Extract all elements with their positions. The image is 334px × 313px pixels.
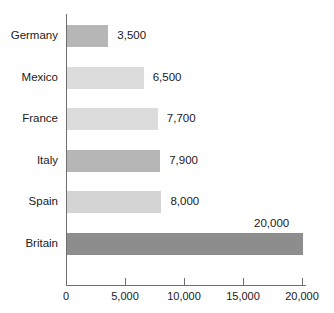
x-tick-3	[243, 278, 244, 285]
bar-mexico[interactable]	[67, 67, 144, 89]
bar-value-label-spain: 8,000	[170, 194, 199, 209]
bar-value-label-france: 7,700	[167, 111, 196, 126]
bar-chart: 05,00010,00015,00020,000 Germany3,500Mex…	[0, 0, 334, 313]
bar-row: France7,700	[0, 107, 334, 131]
bar-italy[interactable]	[67, 150, 160, 172]
x-tick-label-3: 15,000	[226, 290, 260, 303]
bar-britain[interactable]	[67, 233, 303, 255]
x-tick-4	[302, 278, 303, 285]
bar-value-label-italy: 7,900	[169, 153, 198, 168]
bar-france[interactable]	[67, 108, 158, 130]
category-label-italy: Italy	[0, 153, 58, 168]
category-label-britain: Britain	[0, 236, 58, 251]
x-tick-1	[125, 278, 126, 285]
bar-value-label-germany: 3,500	[117, 28, 146, 43]
bar-row: Britain20,000	[0, 232, 334, 256]
x-tick-2	[184, 278, 185, 285]
bar-row: Germany3,500	[0, 24, 334, 48]
bar-value-label-mexico: 6,500	[153, 70, 182, 85]
category-label-mexico: Mexico	[0, 70, 58, 85]
bar-row: Italy7,900	[0, 149, 334, 173]
bar-row: Spain8,000	[0, 190, 334, 214]
x-tick-label-4: 20,000	[285, 290, 319, 303]
bar-value-label-britain: 20,000	[254, 216, 289, 231]
category-label-germany: Germany	[0, 28, 58, 43]
x-tick-label-2: 10,000	[167, 290, 201, 303]
bar-germany[interactable]	[67, 25, 108, 47]
category-label-spain: Spain	[0, 194, 58, 209]
category-label-france: France	[0, 111, 58, 126]
x-tick-label-0: 0	[63, 290, 69, 303]
bar-spain[interactable]	[67, 191, 161, 213]
x-axis-line	[66, 285, 306, 286]
x-tick-label-1: 5,000	[111, 290, 139, 303]
bar-row: Mexico6,500	[0, 66, 334, 90]
x-tick-0	[66, 278, 67, 285]
